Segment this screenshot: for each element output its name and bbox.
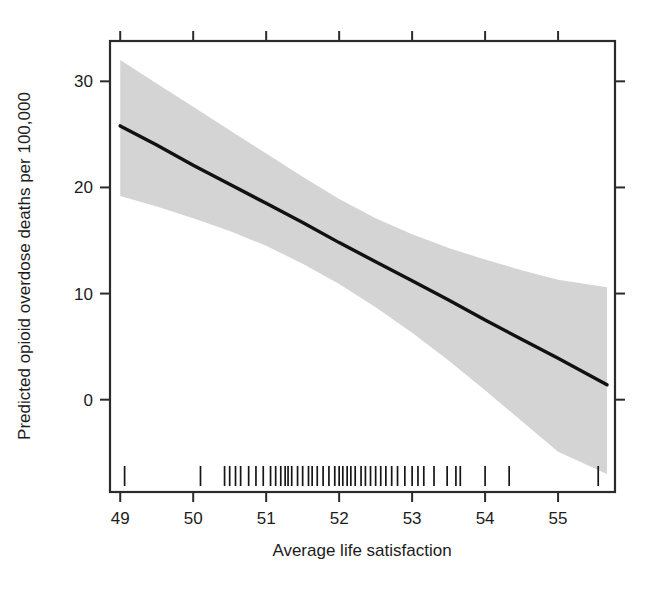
- x-tick-label: 55: [549, 509, 568, 528]
- y-tick-label: 30: [74, 72, 93, 91]
- x-tick-label: 51: [257, 509, 276, 528]
- y-tick-label: 20: [74, 178, 93, 197]
- x-tick-label: 52: [330, 509, 349, 528]
- y-axis-title: Predicted opioid overdose deaths per 100…: [15, 92, 34, 440]
- regression-plot-canvas: 49505152535455 0102030 Average life sati…: [0, 0, 659, 594]
- y-tick-label: 10: [74, 285, 93, 304]
- x-tick-label: 49: [111, 509, 130, 528]
- x-tick-label: 53: [403, 509, 422, 528]
- x-tick-label: 50: [184, 509, 203, 528]
- x-tick-label: 54: [476, 509, 495, 528]
- opioid-life-satisfaction-figure: 49505152535455 0102030 Average life sati…: [0, 0, 659, 594]
- y-tick-label: 0: [84, 391, 93, 410]
- x-axis-title: Average life satisfaction: [272, 541, 451, 560]
